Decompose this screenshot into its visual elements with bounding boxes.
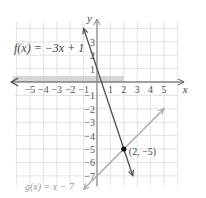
- svg-text:1: 1: [108, 84, 113, 95]
- x-axis-label: x: [182, 83, 188, 95]
- intersection-label: (2, −5): [129, 146, 156, 158]
- g-label: g(x) = x − 7: [25, 181, 75, 193]
- svg-text:−2: −2: [65, 84, 76, 95]
- f-label: f(x) = −3x + 1: [14, 41, 84, 55]
- svg-text:−5: −5: [84, 144, 95, 155]
- svg-text:2: 2: [121, 84, 126, 95]
- svg-text:5: 5: [162, 84, 167, 95]
- svg-text:−2: −2: [84, 104, 95, 115]
- svg-text:−6: −6: [84, 157, 95, 168]
- svg-text:−3: −3: [84, 117, 95, 128]
- svg-text:1: 1: [90, 64, 95, 75]
- svg-text:−4: −4: [38, 84, 49, 95]
- y-axis-label: y: [86, 12, 92, 24]
- svg-text:−1: −1: [84, 90, 95, 101]
- svg-text:−4: −4: [84, 131, 95, 142]
- svg-text:3: 3: [90, 37, 95, 48]
- svg-text:3: 3: [135, 84, 140, 95]
- shaded-band: [13, 76, 124, 82]
- intersection-point: [121, 146, 126, 151]
- svg-text:−3: −3: [51, 84, 62, 95]
- svg-text:−5: −5: [25, 84, 36, 95]
- svg-text:4: 4: [148, 84, 153, 95]
- graph-canvas: −5−4−3−2−112345321−1−2−3−4−5−6−7 f(x) = …: [0, 0, 206, 198]
- tick-labels: −5−4−3−2−112345321−1−2−3−4−5−6−7: [25, 37, 167, 182]
